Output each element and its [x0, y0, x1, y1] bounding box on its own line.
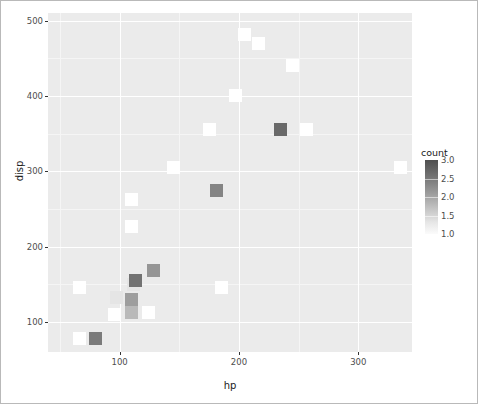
- gridline-major-vertical: [358, 13, 359, 352]
- y-tick-label: 200: [17, 242, 43, 252]
- x-tick-label: 100: [100, 357, 140, 367]
- legend-tick-mark: [425, 179, 438, 180]
- heatmap-tile: [274, 123, 287, 136]
- x-tick-mark: [239, 352, 240, 355]
- heatmap-tile: [167, 161, 180, 174]
- heatmap-tile: [125, 193, 138, 206]
- legend-tick-label: 1.0: [441, 229, 455, 239]
- heatmap-tile: [110, 291, 123, 304]
- heatmap-tile: [394, 161, 407, 174]
- heatmap-tile: [73, 281, 86, 294]
- y-tick-mark: [45, 96, 48, 97]
- legend-tick-mark: [425, 197, 438, 198]
- y-tick-label: 400: [17, 91, 43, 101]
- x-axis-title: hp: [48, 380, 412, 391]
- gridline-minor-vertical: [179, 13, 180, 352]
- y-tick-mark: [45, 21, 48, 22]
- heatmap-tile: [142, 306, 155, 319]
- gridline-major-horizontal: [48, 21, 412, 22]
- gridline-major-horizontal: [48, 247, 412, 248]
- heatmap-tile: [210, 184, 223, 197]
- heatmap-tile: [108, 308, 121, 321]
- y-tick-label: 500: [17, 16, 43, 26]
- heatmap-tile: [125, 220, 138, 233]
- legend-tick-label: 2.0: [441, 192, 455, 202]
- gridline-major-horizontal: [48, 322, 412, 323]
- legend-tick-label: 1.5: [441, 211, 455, 221]
- heatmap-tile: [215, 281, 228, 294]
- x-tick-label: 200: [219, 357, 259, 367]
- y-tick-label: 100: [17, 317, 43, 327]
- plot-panel: [48, 13, 412, 352]
- heatmap-tile: [129, 274, 142, 287]
- gridline-major-horizontal: [48, 171, 412, 172]
- legend-tick-mark: [425, 216, 438, 217]
- y-tick-mark: [45, 171, 48, 172]
- heatmap-tile: [125, 293, 138, 306]
- legend-tick-label: 2.5: [441, 174, 455, 184]
- heatmap-tile: [238, 28, 251, 41]
- legend-tick-label: 3.0: [441, 155, 455, 165]
- x-tick-mark: [120, 352, 121, 355]
- heatmap-tile: [286, 59, 299, 72]
- y-tick-mark: [45, 322, 48, 323]
- gridline-major-vertical: [239, 13, 240, 352]
- heatmap-tile: [252, 37, 265, 50]
- y-tick-label: 300: [17, 166, 43, 176]
- heatmap-tile: [229, 89, 242, 102]
- gridline-minor-vertical: [60, 13, 61, 352]
- heatmap-tile: [147, 264, 160, 277]
- x-tick-label: 300: [338, 357, 378, 367]
- y-tick-mark: [45, 247, 48, 248]
- x-tick-mark: [358, 352, 359, 355]
- heatmap-tile: [125, 306, 138, 319]
- chart-frame: hp disp count 1.01.52.02.53.0 1002003001…: [0, 0, 478, 404]
- heatmap-tile: [73, 332, 86, 345]
- heatmap-tile: [300, 123, 313, 136]
- heatmap-tile: [89, 332, 102, 345]
- heatmap-tile: [203, 123, 216, 136]
